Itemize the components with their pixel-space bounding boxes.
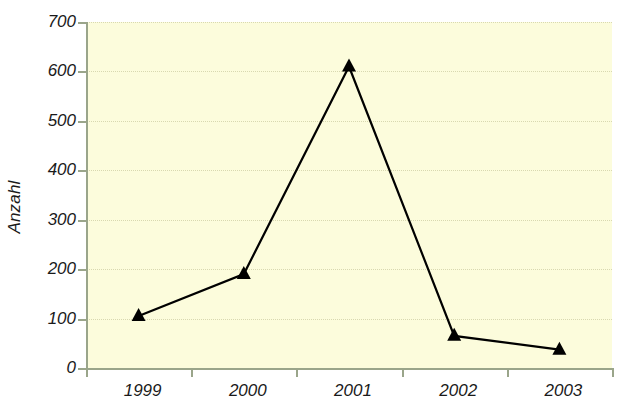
y-tick-mark-0 <box>78 368 86 370</box>
gridline-700 <box>86 22 612 23</box>
y-tick-mark-200 <box>78 269 86 271</box>
y-tick-mark-400 <box>78 170 86 172</box>
y-tick-label-0: 0 <box>24 358 76 378</box>
x-tick-mark-2 <box>296 368 298 377</box>
y-tick-label-600: 600 <box>24 61 76 81</box>
x-tick-label-2001: 2001 <box>299 381 407 401</box>
y-tick-labels: 700 600 500 400 300 200 100 0 <box>24 0 76 414</box>
x-tick-label-2000: 2000 <box>194 381 302 401</box>
plot-area <box>86 22 612 368</box>
y-axis-line <box>86 22 88 369</box>
y-tick-mark-100 <box>78 319 86 321</box>
y-tick-mark-700 <box>78 22 86 24</box>
y-tick-label-700: 700 <box>24 12 76 32</box>
x-tick-mark-5 <box>612 368 614 377</box>
gridline-500 <box>86 121 612 122</box>
x-tick-mark-1 <box>191 368 193 377</box>
x-tick-mark-4 <box>507 368 509 377</box>
x-tick-mark-0 <box>86 368 88 377</box>
x-tick-label-2002: 2002 <box>404 381 512 401</box>
gridline-300 <box>86 220 612 221</box>
y-tick-label-300: 300 <box>24 210 76 230</box>
x-tick-mark-3 <box>402 368 404 377</box>
line-chart: 700 600 500 400 300 200 100 0 1999 2000 … <box>0 0 625 414</box>
x-axis-line <box>86 368 613 370</box>
gridline-600 <box>86 71 612 72</box>
y-tick-label-200: 200 <box>24 259 76 279</box>
y-tick-mark-300 <box>78 220 86 222</box>
x-tick-label-1999: 1999 <box>89 381 197 401</box>
gridline-400 <box>86 170 612 171</box>
y-tick-label-400: 400 <box>24 160 76 180</box>
y-tick-mark-600 <box>78 71 86 73</box>
y-tick-label-100: 100 <box>24 309 76 329</box>
x-tick-label-2003: 2003 <box>509 381 617 401</box>
y-tick-label-500: 500 <box>24 111 76 131</box>
gridline-200 <box>86 269 612 270</box>
gridline-100 <box>86 319 612 320</box>
y-tick-mark-500 <box>78 121 86 123</box>
